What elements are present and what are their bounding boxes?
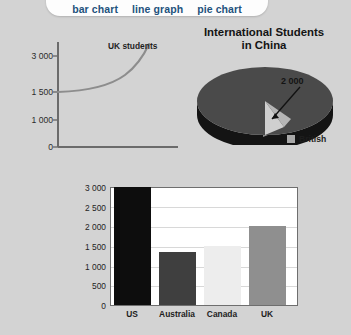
- bar-xlabel-canada: Canada: [207, 309, 237, 319]
- pie-chart-title: International Students in China: [184, 26, 344, 52]
- pie-title-line-1: International Students: [204, 26, 324, 38]
- bar-ytick-1500: 1 500: [85, 242, 106, 252]
- line-graph-series-label: UK students: [108, 41, 157, 51]
- textbook-page: bar chart line graph pie chart 3 000 1 5…: [0, 0, 351, 335]
- line-graph-svg: [6, 34, 186, 152]
- pie-title-line-2: in China: [184, 39, 344, 52]
- bar-us: [114, 187, 151, 305]
- bar-ytick-500: 500: [92, 281, 106, 291]
- bar-ytick-2500: 2 500: [85, 203, 106, 213]
- bar-chart-plot-area: [110, 187, 298, 306]
- term-pie-chart: pie chart: [197, 3, 242, 15]
- line-graph: 3 000 1 500 1 000 0 UK students: [6, 34, 186, 152]
- bar-australia: [159, 252, 196, 305]
- bar-xlabel-us: US: [126, 309, 138, 319]
- pie-chart: International Students in China 2 000 Br…: [184, 26, 351, 156]
- legend-label-british: British: [299, 134, 326, 144]
- bar-ytick-0: 0: [101, 301, 106, 311]
- pie-chart-legend: British: [287, 134, 326, 144]
- term-bar-chart: bar chart: [72, 3, 118, 15]
- bar-uk: [249, 226, 286, 305]
- bar-ytick-2000: 2 000: [85, 222, 106, 232]
- bar-ytick-1000: 1 000: [85, 262, 106, 272]
- vocabulary-banner: bar chart line graph pie chart: [46, 0, 268, 16]
- term-line-graph: line graph: [132, 3, 183, 15]
- bar-chart: 3 000 2 500 2 000 1 500 1 000 500 0 US A…: [34, 178, 320, 328]
- bar-xlabel-uk: UK: [261, 309, 273, 319]
- pie-slice-value-label: 2 000: [281, 76, 304, 86]
- legend-swatch-british: [287, 135, 295, 143]
- bar-xlabel-australia: Australia: [159, 309, 195, 319]
- pie-chart-svg: [192, 57, 338, 145]
- bar-canada: [204, 246, 241, 305]
- bar-ytick-3000: 3 000: [85, 183, 106, 193]
- bar-chart-y-axis: 3 000 2 500 2 000 1 500 1 000 500 0: [34, 178, 106, 316]
